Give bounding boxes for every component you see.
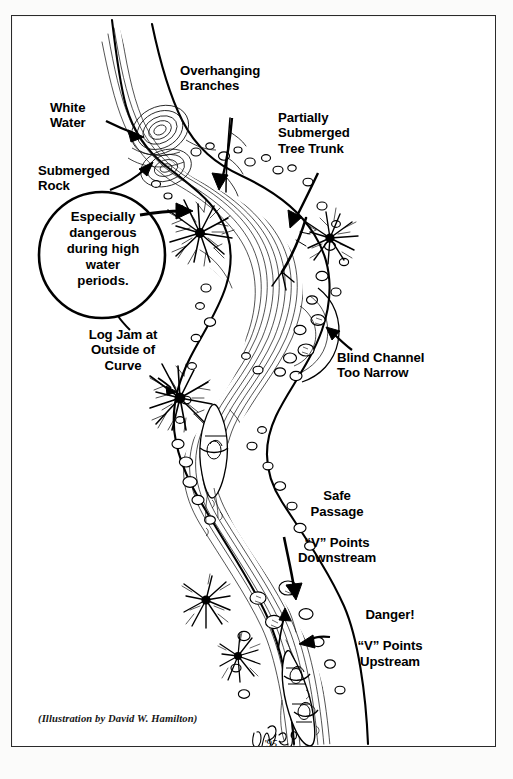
label-safe-passage: Safe Passage “V” Points Downstream [262,473,412,565]
label-overhanging-branches: Overhanging Branches [180,63,260,94]
label-danger: Danger! “V” Points Upstream [330,592,450,669]
label-log-jam: Log Jam at Outside of Curve [68,327,178,373]
label-danger-detail: “V” Points Upstream [358,638,423,668]
label-safe-passage-detail: “V” Points Downstream [298,535,376,565]
svg-text:'95: '95 [264,737,278,749]
label-partially-submerged-tree-trunk: Partially Submerged Tree Trunk [278,110,350,156]
label-blind-channel: Blind Channel Too Narrow [337,350,424,381]
label-danger-emphasis: Danger! [365,607,414,622]
label-white-water: White Water [50,100,86,131]
callout-circle-text: Especially dangerous during high water p… [52,209,154,289]
illustration-page: '95 White Water Overhanging Branches Par… [0,0,513,779]
illustration-credit: (Illustration by David W. Hamilton) [38,713,197,724]
label-safe-passage-emphasis: Safe Passage [311,488,364,518]
label-submerged-rock: Submerged Rock [38,163,110,194]
